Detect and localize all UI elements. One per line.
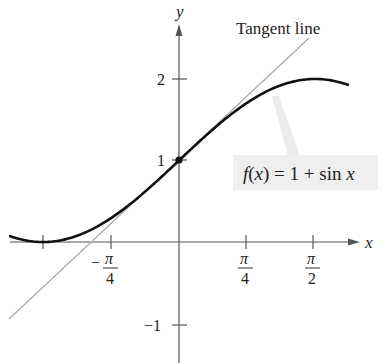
x-axis-arrow-icon: [348, 239, 360, 246]
tangent-line-label: Tangent line: [236, 19, 320, 38]
y-tick-label-1: 1: [157, 152, 165, 169]
y-axis-arrow-icon: [176, 24, 183, 36]
y-tick-label-2: 2: [157, 71, 165, 88]
svg-text:π: π: [307, 250, 316, 267]
x-axis-label: x: [364, 233, 373, 252]
svg-text:π: π: [105, 250, 114, 267]
svg-text:2: 2: [308, 270, 316, 287]
svg-text:π: π: [240, 250, 249, 267]
svg-text:4: 4: [106, 270, 114, 287]
x-tick-pi-over-4: π 4: [238, 250, 253, 287]
chart: f(x) = 1 + sin x x y − π 4 π 4 π 2 2 1 −…: [0, 0, 383, 363]
x-tick-pi-over-2: π 2: [305, 250, 320, 287]
function-label: f(x) = 1 + sin x: [243, 163, 355, 185]
function-label-leader: [272, 96, 300, 156]
y-tick-label-neg1: −1: [144, 317, 161, 334]
x-tick-neg-pi-over-4: − π 4: [91, 250, 118, 287]
tangency-point: [175, 156, 182, 163]
svg-text:−: −: [91, 254, 100, 271]
svg-text:4: 4: [241, 270, 249, 287]
y-axis-label: y: [174, 2, 184, 21]
